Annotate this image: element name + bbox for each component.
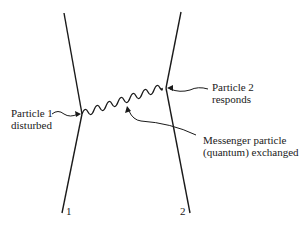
particle-1-arrow xyxy=(52,111,81,117)
particle-2-label-line2: responds xyxy=(212,93,254,105)
messenger-arrow xyxy=(125,106,196,135)
particle-2-worldline xyxy=(166,12,190,213)
particle-2-label-line1: Particle 2 xyxy=(212,81,254,93)
particle-1-number: 1 xyxy=(66,205,72,217)
messenger-label-line2: (quantum) exchanged xyxy=(203,146,299,158)
particle-2-label: Particle 2 responds xyxy=(212,81,254,105)
particle-1-label-line1: Particle 1 xyxy=(11,107,53,119)
messenger-label: Messenger particle (quantum) exchanged xyxy=(203,134,299,158)
particle-2-arrow xyxy=(167,85,208,91)
particle-1-label: Particle 1 disturbed xyxy=(11,107,53,131)
messenger-label-line1: Messenger particle xyxy=(203,134,299,146)
particle-1-label-line2: disturbed xyxy=(11,119,53,131)
messenger-wavy-line xyxy=(82,85,162,114)
particle-2-number: 2 xyxy=(180,205,186,217)
